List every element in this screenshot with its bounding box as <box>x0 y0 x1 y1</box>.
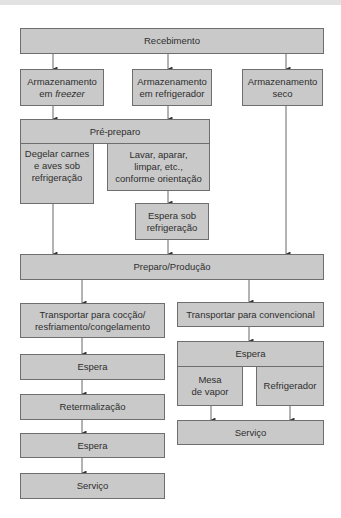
node-label: Pré-preparo <box>90 126 141 138</box>
node-armazenamento-freezer: Armazenamentoem freezer <box>20 69 104 106</box>
node-armazenamento-seco: Armazenamento seco <box>242 69 323 106</box>
node-lavar: Lavar, aparar, limpar, etc., conforme or… <box>107 143 210 191</box>
node-label: Preparo/Produção <box>133 261 210 273</box>
node-preparo-producao: Preparo/Produção <box>20 254 324 280</box>
node-armazenamento-refrigerador: Armazenamento em refrigerador <box>132 69 212 106</box>
node-espera-left-2: Espera <box>20 433 165 458</box>
node-label: Mesa de vapor <box>192 374 229 398</box>
node-label: Armazenamentoem freezer <box>27 76 97 100</box>
node-label: Serviço <box>77 480 109 492</box>
node-espera-left-1: Espera <box>20 354 165 380</box>
node-label: Serviço <box>235 427 267 439</box>
node-label-italic: freezer <box>55 88 85 99</box>
node-label: Armazenamento em refrigerador <box>137 76 207 100</box>
node-label: Espera <box>77 361 107 373</box>
node-label: Retermalização <box>60 401 126 413</box>
node-label: Espera <box>77 440 107 452</box>
node-espera-right: Espera <box>177 341 324 367</box>
node-recebimento: Recebimento <box>20 28 324 54</box>
node-refrigerador: Refrigerador <box>256 366 324 406</box>
node-espera-sob-refrigeracao: Espera sob refrigeração <box>135 203 209 240</box>
node-label: Lavar, aparar, limpar, etc., conforme or… <box>115 149 202 185</box>
node-label: Degelar carnes e aves sob refrigeração <box>25 148 89 184</box>
node-degelar: Degelar carnes e aves sob refrigeração <box>20 143 94 204</box>
node-label: Armazenamento seco <box>248 76 318 100</box>
node-label-line2: em freezer <box>39 88 84 99</box>
node-servico-right: Serviço <box>177 420 324 445</box>
node-servico-left: Serviço <box>20 473 165 499</box>
node-label-line1: Armazenamento <box>27 76 97 88</box>
node-label: Espera sob refrigeração <box>147 210 198 234</box>
node-pre-preparo: Pré-preparo <box>20 119 210 144</box>
node-mesa-de-vapor: Mesa de vapor <box>177 366 243 406</box>
node-label: Espera <box>235 348 265 360</box>
node-transportar-convencional: Transportar para convencional <box>177 302 324 327</box>
node-label: Transportar para cocção/ resfriamento/co… <box>35 309 150 333</box>
node-label: Transportar para convencional <box>186 309 315 321</box>
node-transportar-coccao: Transportar para cocção/ resfriamento/co… <box>20 303 165 338</box>
node-label-prefix: em <box>39 88 55 99</box>
node-label: Recebimento <box>144 35 200 47</box>
node-retermalizacao: Retermalização <box>20 394 165 420</box>
node-label: Refrigerador <box>264 380 317 392</box>
